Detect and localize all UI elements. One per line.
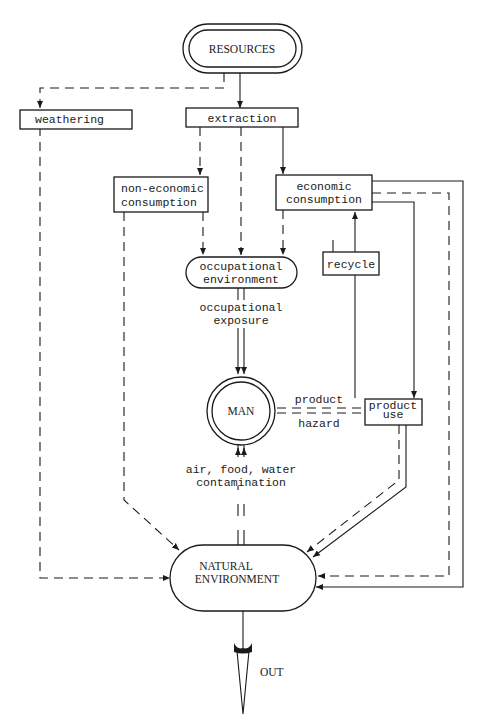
node-natural-line2: ENVIRONMENT bbox=[195, 573, 279, 585]
node-extraction-label: extraction bbox=[207, 112, 276, 125]
edge-productuse-natural-solid bbox=[313, 425, 406, 557]
edge-noneconomic-natural bbox=[124, 212, 179, 550]
node-recycle-label: recycle bbox=[327, 258, 375, 271]
node-man: MAN bbox=[207, 377, 275, 445]
node-product-use: product use bbox=[365, 399, 422, 425]
node-economic-consumption: economic consumption bbox=[276, 175, 372, 210]
node-occupational-environment: occupational environment bbox=[186, 257, 297, 288]
label-product-hazard-line2: hazard bbox=[298, 417, 339, 430]
label-contamination-line1: air, food, water bbox=[186, 463, 296, 476]
node-man-label: MAN bbox=[228, 405, 256, 417]
node-productuse-line2: use bbox=[383, 408, 404, 421]
edge-productuse-natural-dashed bbox=[307, 425, 399, 552]
node-economic-line2: consumption bbox=[286, 193, 362, 206]
node-noneconomic-line2: consumption bbox=[121, 196, 197, 209]
label-occupational-exposure-line1: occupational bbox=[200, 301, 283, 314]
edge-economic-natural-solid-outer bbox=[316, 181, 463, 587]
node-recycle: recycle bbox=[323, 252, 379, 275]
node-resources: RESOURCES bbox=[183, 24, 302, 73]
edge-resources-weathering bbox=[40, 73, 224, 108]
node-out-label: OUT bbox=[260, 666, 284, 678]
node-economic-line1: economic bbox=[296, 180, 351, 193]
node-extraction: extraction bbox=[186, 108, 298, 127]
node-occupational-line2: environment bbox=[203, 273, 279, 286]
edge-economic-productuse bbox=[372, 202, 414, 398]
out-funnel-body bbox=[237, 651, 249, 714]
label-occupational-exposure-line2: exposure bbox=[213, 314, 268, 327]
node-out: OUT bbox=[234, 643, 284, 714]
node-weathering: weathering bbox=[20, 110, 132, 129]
node-noneconomic-line1: non-economic bbox=[121, 182, 204, 195]
node-occupational-line1: occupational bbox=[200, 260, 283, 273]
node-natural-environment: NATURAL ENVIRONMENT bbox=[170, 545, 316, 611]
label-product-hazard-line1: product bbox=[295, 393, 343, 406]
node-non-economic-consumption: non-economic consumption bbox=[114, 177, 208, 212]
node-natural-line1: NATURAL bbox=[199, 560, 253, 572]
edge-economic-natural-dashed bbox=[318, 193, 449, 576]
resource-flow-diagram: RESOURCES weathering extraction non-econ… bbox=[0, 0, 484, 728]
node-weathering-label: weathering bbox=[35, 113, 104, 126]
node-resources-label: RESOURCES bbox=[209, 43, 275, 55]
label-contamination-line2: contamination bbox=[196, 476, 286, 489]
